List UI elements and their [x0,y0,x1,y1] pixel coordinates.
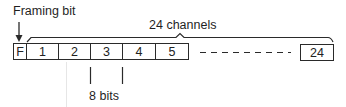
channel-cell-2: 2 [59,43,91,60]
channel-cell-1: 1 [27,43,59,60]
framing-bit-label: Framing bit [13,4,76,18]
framing-bit-arrow-icon [16,22,23,42]
channels-brace-icon [27,34,333,43]
channel-cell-4: 4 [123,43,156,60]
t1-frame-diagram: Framing bit 24 channels 8 bits F 1 2 3 4… [0,0,346,107]
framing-bit-cell: F [13,43,27,60]
channel-cell-3: 3 [91,43,123,60]
channel-cell-5: 5 [156,43,189,60]
bit-span-markers [91,67,123,84]
channels-label: 24 channels [149,18,216,32]
channel-cell-24: 24 [300,44,334,61]
bits-label: 8 bits [89,89,119,103]
